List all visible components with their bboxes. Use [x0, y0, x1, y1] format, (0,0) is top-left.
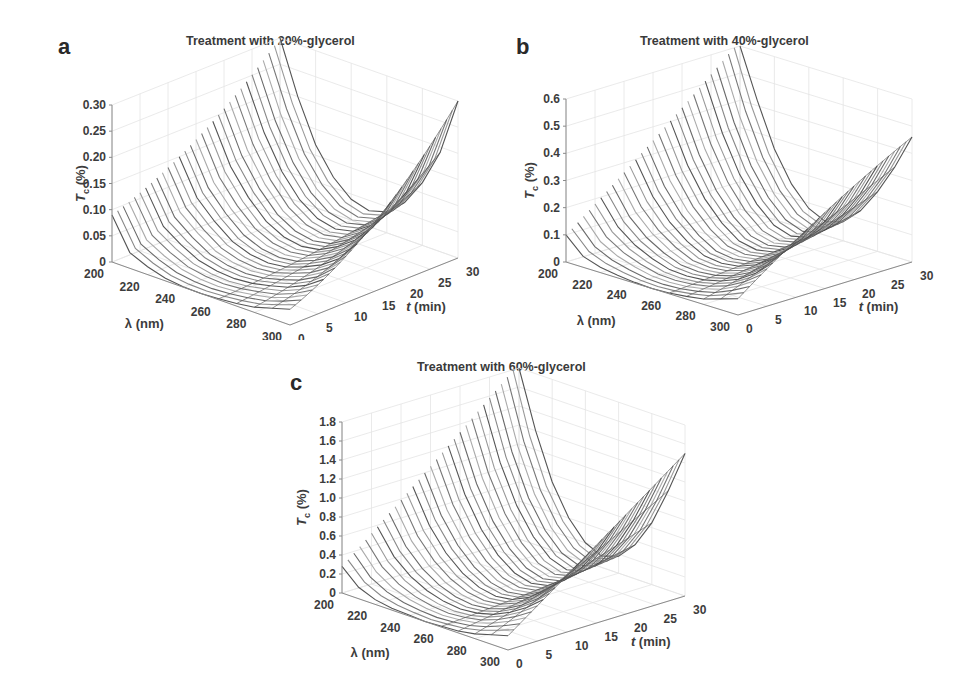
y-tick-label: 25 [664, 612, 678, 626]
surface-plot: 00.050.100.150.200.250.30200220240260280… [0, 0, 490, 340]
surface-plot: 00.10.20.30.40.50.6200220240260280300051… [490, 0, 978, 340]
axes: 00.10.20.30.40.50.6200220240260280300051… [522, 92, 934, 336]
x-tick-label: 220 [347, 609, 367, 623]
svg-text:Tc (%): Tc (%) [294, 489, 312, 526]
z-tick-label: 0.6 [543, 92, 560, 106]
surface-mesh [342, 368, 685, 636]
y-tick-label: 5 [775, 313, 782, 327]
y-tick-label: 0 [516, 657, 523, 671]
svg-text:Tc (%): Tc (%) [522, 162, 540, 199]
x-tick-label: 220 [572, 278, 592, 292]
y-tick-label: 5 [546, 648, 553, 662]
x-tick-label: 300 [480, 655, 500, 669]
z-axis-label: Tc (%) [522, 162, 540, 199]
x-tick-label: 260 [414, 632, 434, 646]
x-tick-label: 240 [155, 292, 175, 306]
y-axis-label: t (min) [406, 299, 446, 314]
z-tick-label: 0.8 [319, 510, 336, 524]
y-tick-label: 15 [382, 299, 396, 313]
y-tick-label: 0 [298, 332, 305, 340]
y-tick-label: 10 [804, 304, 818, 318]
z-tick-label: 0.2 [543, 201, 560, 215]
x-tick-label: 220 [120, 280, 140, 294]
y-tick-label: 25 [438, 276, 452, 290]
y-tick-label: 5 [326, 321, 333, 335]
y-tick-label: 15 [833, 296, 847, 310]
x-tick-label: 280 [226, 317, 246, 331]
z-tick-label: 0.5 [543, 119, 560, 133]
z-tick-label: 0.20 [83, 150, 107, 164]
x-tick-label: 240 [380, 621, 400, 635]
y-tick-label: 30 [920, 269, 934, 283]
z-tick-label: 0.3 [543, 174, 560, 188]
y-axis-label: t (min) [859, 299, 899, 314]
surface-mesh [112, 38, 458, 309]
x-tick-label: 200 [538, 267, 558, 281]
x-tick-label: 280 [676, 309, 696, 323]
y-axis-label: t (min) [631, 634, 671, 649]
z-tick-label: 0.10 [83, 203, 107, 217]
x-tick-label: 240 [607, 288, 627, 302]
z-tick-label: 1.6 [319, 434, 336, 448]
z-tick-label: 0.4 [319, 548, 336, 562]
y-tick-label: 30 [466, 265, 480, 279]
z-tick-label: 0.2 [319, 567, 336, 581]
y-tick-label: 25 [891, 278, 905, 292]
surface-mesh [566, 46, 912, 299]
y-tick-label: 10 [575, 639, 589, 653]
surface-plot: 00.20.40.60.81.01.21.41.61.8200220240260… [260, 340, 720, 683]
x-tick-label: 260 [191, 305, 211, 319]
z-tick-label: 0.30 [83, 98, 107, 112]
z-axis-label: Tc (%) [294, 489, 312, 526]
x-tick-label: 280 [447, 644, 467, 658]
panel-c: c Treatment with 60%-glycerol 00.20.40.6… [260, 340, 720, 683]
x-tick-label: 200 [314, 598, 334, 612]
axes: 00.20.40.60.81.01.21.41.61.8200220240260… [294, 415, 707, 671]
panel-a: a Treatment with 20%-glycerol 00.050.100… [0, 0, 490, 340]
y-tick-label: 15 [605, 630, 619, 644]
z-tick-label: 0.05 [83, 229, 107, 243]
x-axis-label: λ (nm) [125, 316, 164, 331]
x-tick-label: 300 [710, 320, 730, 334]
x-tick-label: 260 [641, 299, 661, 313]
z-tick-label: 0.4 [543, 146, 560, 160]
z-tick-label: 0.25 [83, 124, 107, 138]
x-axis-label: λ (nm) [577, 313, 616, 328]
y-tick-label: 30 [693, 603, 707, 617]
y-tick-label: 0 [746, 322, 753, 336]
x-axis-label: λ (nm) [351, 645, 390, 660]
y-tick-label: 10 [354, 310, 368, 324]
z-tick-label: 0.1 [543, 228, 560, 242]
x-tick-label: 300 [262, 330, 282, 340]
z-tick-label: 1.8 [319, 415, 336, 429]
panel-b: b Treatment with 40%-glycerol 00.10.20.3… [490, 0, 978, 340]
x-tick-label: 200 [84, 267, 104, 281]
z-tick-label: 0.6 [319, 529, 336, 543]
z-tick-label: 1.0 [319, 491, 336, 505]
z-tick-label: 1.4 [319, 453, 336, 467]
z-tick-label: 1.2 [319, 472, 336, 486]
